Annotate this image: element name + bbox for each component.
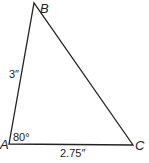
vertex-label-b: B	[40, 1, 49, 16]
triangle-diagram: B A C 3″ 2.75″ 80°	[0, 0, 149, 163]
side-ab-length: 3″	[9, 68, 19, 80]
side-ac-length: 2.75″	[60, 147, 85, 159]
triangle-abc	[9, 3, 133, 145]
angle-a-measure: 80°	[13, 131, 30, 143]
vertex-label-c: C	[135, 138, 145, 153]
vertex-label-a: A	[0, 137, 9, 152]
